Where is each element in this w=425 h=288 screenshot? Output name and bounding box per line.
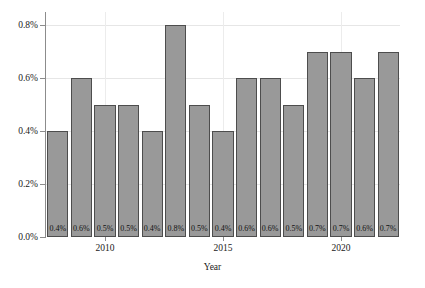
plot-area: 0.4%0.6%0.5%0.5%0.4%0.8%0.5%0.4%0.6%0.6%… bbox=[46, 12, 400, 237]
bar[interactable] bbox=[118, 105, 139, 237]
x-axis-title: Year bbox=[0, 262, 425, 272]
y-axis-tick-label: 0.6% bbox=[18, 73, 38, 83]
bar-value-label: 0.4% bbox=[212, 224, 233, 233]
x-axis-tick-label: 2010 bbox=[80, 243, 130, 254]
bar-value-label: 0.7% bbox=[330, 224, 351, 233]
bar[interactable] bbox=[165, 25, 186, 237]
y-axis-tick-label: 0.4% bbox=[18, 126, 38, 136]
bar[interactable] bbox=[189, 105, 210, 237]
x-axis-tick-mark bbox=[223, 237, 224, 241]
bar-value-label: 0.6% bbox=[71, 224, 92, 233]
bar[interactable] bbox=[94, 105, 115, 237]
bar-value-label: 0.8% bbox=[165, 224, 186, 233]
y-axis-tick-label: 0.2% bbox=[18, 179, 38, 189]
bar[interactable] bbox=[71, 78, 92, 237]
bar-value-label: 0.6% bbox=[354, 224, 375, 233]
bar[interactable] bbox=[283, 105, 304, 237]
x-axis-tick-mark bbox=[341, 237, 342, 241]
bar-value-label: 0.6% bbox=[260, 224, 281, 233]
bar[interactable] bbox=[354, 78, 375, 237]
bar[interactable] bbox=[236, 78, 257, 237]
y-axis-line bbox=[45, 12, 46, 238]
x-axis-tick-mark bbox=[105, 237, 106, 241]
bar-value-label: 0.4% bbox=[142, 224, 163, 233]
x-axis-tick-label: 2020 bbox=[316, 243, 366, 254]
bar[interactable] bbox=[260, 78, 281, 237]
y-axis-tick-label: 0.0% bbox=[18, 232, 38, 242]
y-axis-tick-mark bbox=[40, 184, 45, 185]
bar-value-label: 0.4% bbox=[47, 224, 68, 233]
bar[interactable] bbox=[142, 131, 163, 237]
y-axis-tick-mark bbox=[40, 131, 45, 132]
bar[interactable] bbox=[330, 52, 351, 237]
x-axis-tick-label: 2015 bbox=[198, 243, 248, 254]
bar-chart: 0.4%0.6%0.5%0.5%0.4%0.8%0.5%0.4%0.6%0.6%… bbox=[0, 0, 425, 288]
bar-value-label: 0.5% bbox=[189, 224, 210, 233]
bar[interactable] bbox=[307, 52, 328, 237]
bar-value-label: 0.5% bbox=[118, 224, 139, 233]
bar-value-label: 0.5% bbox=[94, 224, 115, 233]
bar-value-label: 0.7% bbox=[307, 224, 328, 233]
y-axis-tick-mark bbox=[40, 25, 45, 26]
bar[interactable] bbox=[378, 52, 399, 237]
y-axis-tick-mark bbox=[40, 237, 45, 238]
bar-value-label: 0.5% bbox=[283, 224, 304, 233]
bar[interactable] bbox=[47, 131, 68, 237]
bar-value-label: 0.6% bbox=[236, 224, 257, 233]
y-axis-tick-label: 0.8% bbox=[18, 20, 38, 30]
bar-value-label: 0.7% bbox=[378, 224, 399, 233]
y-axis-tick-mark bbox=[40, 78, 45, 79]
bar[interactable] bbox=[212, 131, 233, 237]
